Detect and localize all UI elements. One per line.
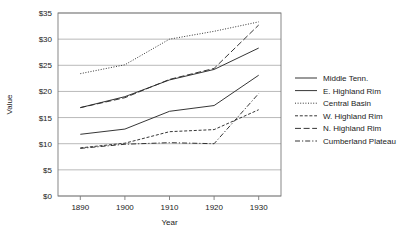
x-tick-label: 1900: [116, 203, 134, 212]
y-tick-label: $0: [43, 192, 52, 201]
x-axis: 18901900191019201930: [71, 196, 268, 212]
legend-label: Cumberland Plateau: [323, 137, 396, 146]
legend: Middle Tenn.E. Highland RimCentral Basin…: [295, 74, 396, 146]
legend-label: W. Highland Rim: [323, 112, 383, 121]
x-axis-title: Year: [161, 218, 178, 227]
y-tick-label: $35: [39, 9, 53, 18]
series-line: [80, 25, 258, 108]
y-tick-label: $15: [39, 114, 53, 123]
x-tick-label: 1890: [71, 203, 89, 212]
y-tick-label: $25: [39, 61, 53, 70]
y-tick-label: $10: [39, 140, 53, 149]
chart-figure: $0$5$10$15$20$25$30$35189019001910192019…: [0, 0, 413, 240]
x-tick-label: 1930: [250, 203, 268, 212]
series-group: [80, 22, 258, 149]
y-gridlines: $0$5$10$15$20$25$30$35: [39, 9, 281, 201]
series-line: [80, 75, 258, 134]
legend-label: N. Highland Rim: [323, 124, 382, 133]
series-line: [80, 110, 258, 148]
y-tick-label: $5: [43, 166, 52, 175]
y-axis-title: Value: [5, 94, 14, 114]
legend-label: Middle Tenn.: [323, 74, 368, 83]
x-tick-label: 1910: [161, 203, 179, 212]
series-line: [80, 22, 258, 74]
y-tick-label: $30: [39, 35, 53, 44]
y-tick-label: $20: [39, 87, 53, 96]
legend-label: Central Basin: [323, 99, 371, 108]
series-line: [80, 48, 258, 108]
x-tick-label: 1920: [205, 203, 223, 212]
legend-label: E. Highland Rim: [323, 87, 381, 96]
line-chart: $0$5$10$15$20$25$30$35189019001910192019…: [0, 0, 413, 240]
